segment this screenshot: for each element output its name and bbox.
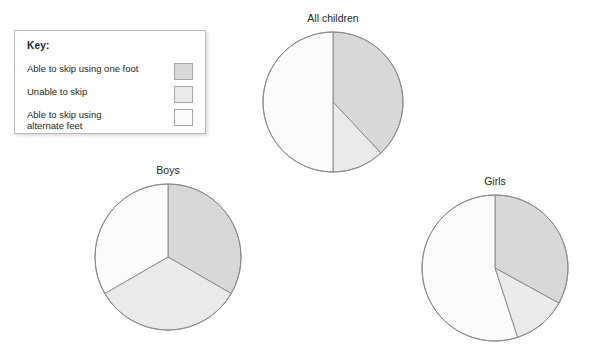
key-title: Key: [27,40,49,51]
pie-title-girls: Girls [419,175,571,187]
pie-svg-all-children [260,29,406,175]
key-label-unable: Unable to skip [27,86,159,97]
key-row-one-foot: Able to skip using one foot [27,63,199,85]
pie-svg-boys [92,181,244,333]
key-row-unable: Unable to skip [27,86,199,108]
key-swatch-one-foot [174,63,193,80]
key-legend-box: Key: Able to skip using one foot Unable … [14,30,206,134]
key-swatch-alternate-feet [174,109,193,126]
key-label-one-foot: Able to skip using one foot [27,63,159,74]
pie-chart-boys: Boys [92,164,244,333]
key-row-alternate-feet: Able to skip usingalternate feet [27,109,199,131]
key-swatch-unable [174,86,193,103]
pie-slice [263,32,333,172]
pie-svg-girls [419,192,571,344]
chart-canvas: Key: Able to skip using one foot Unable … [0,0,592,357]
key-label-alternate-feet: Able to skip usingalternate feet [27,109,159,131]
pie-title-boys: Boys [92,164,244,176]
pie-chart-girls: Girls [419,175,571,344]
pie-title-all-children: All children [260,12,406,24]
pie-chart-all-children: All children [260,12,406,175]
